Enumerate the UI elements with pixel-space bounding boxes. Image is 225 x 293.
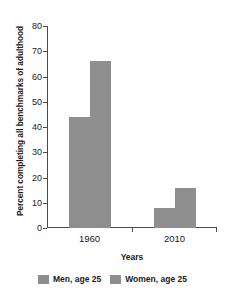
legend-label: Men, age 25 <box>53 275 101 284</box>
legend-item: Women, age 25 <box>110 275 187 284</box>
y-tick-label: 30 <box>32 148 42 157</box>
y-axis-title: Percent completing all benchmarks of adu… <box>15 14 25 229</box>
legend-swatch-icon <box>110 275 121 284</box>
bar-chart: Percent completing all benchmarks of adu… <box>0 0 225 293</box>
legend-swatch-icon <box>38 275 49 284</box>
x-tick-mark <box>216 228 217 232</box>
x-category-label: 1960 <box>79 234 100 244</box>
y-tick-mark <box>43 178 47 179</box>
y-tick-mark <box>43 77 47 78</box>
y-tick-mark <box>43 228 47 229</box>
x-category-label: 2010 <box>164 234 185 244</box>
y-tick-label: 50 <box>32 97 42 106</box>
bar <box>175 188 196 228</box>
y-tick-mark <box>43 203 47 204</box>
y-tick-mark <box>43 51 47 52</box>
y-axis-line <box>47 26 48 228</box>
legend-item: Men, age 25 <box>38 275 101 284</box>
y-tick-mark <box>43 102 47 103</box>
legend-label: Women, age 25 <box>125 275 187 284</box>
y-tick-label: 70 <box>32 47 42 56</box>
x-tick-mark <box>132 228 133 232</box>
y-tick-label: 60 <box>32 72 42 81</box>
x-axis-title: Years <box>47 252 217 262</box>
bar <box>90 61 111 228</box>
y-tick-mark <box>43 26 47 27</box>
y-tick-label: 40 <box>32 123 42 132</box>
y-tick-mark <box>43 127 47 128</box>
chart-legend: Men, age 25Women, age 25 <box>0 275 225 284</box>
y-tick-label: 80 <box>32 22 42 31</box>
plot-area: 01020304050607080 19602010 <box>47 26 217 228</box>
y-tick-mark <box>43 152 47 153</box>
y-tick-label: 10 <box>32 198 42 207</box>
bar <box>154 208 175 228</box>
bar <box>69 117 90 228</box>
y-tick-label: 20 <box>32 173 42 182</box>
y-tick-label: 0 <box>37 224 42 233</box>
